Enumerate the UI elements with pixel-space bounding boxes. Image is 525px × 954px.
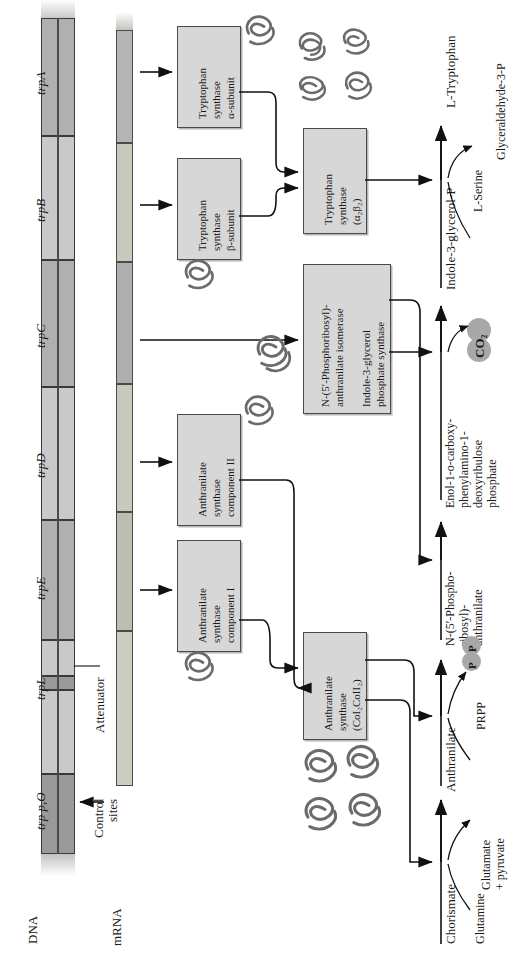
- metabolite-label-chorismate: Chorismate: [444, 884, 459, 944]
- enzyme-label-trpsyn-l2: synthase: [336, 187, 349, 225]
- metabolite-label-indole-3-glycerol-p: Indole-3-glycerol-P: [444, 187, 459, 290]
- enzyme-label-trpsyn-l3: (α₂β₂): [350, 199, 363, 225]
- dna-gene-label-trpC: trpC: [34, 324, 49, 348]
- mrna-segment-trpA: [116, 30, 133, 143]
- dna-axis-label: DNA: [26, 916, 41, 944]
- dna-center-line: [57, 18, 59, 854]
- cosubstrate-label-prpp: PRPP: [475, 702, 488, 730]
- attenuator-label: Attenuator: [93, 677, 108, 733]
- enzyme-box-anthranilate-synthase-complex[interactable]: Anthranilate synthase (CoI₂CoII₂): [303, 632, 367, 740]
- mrna-axis-label: mRNA: [110, 908, 125, 946]
- polypeptide-label-trpA-l2: synthase: [210, 81, 223, 119]
- enzyme-box-trpc-bifunctional[interactable]: N-(5′-Phosphoribosyl)- anthranilate isom…: [303, 264, 391, 414]
- coproduct-label-glutamate-pyruvate-l2: + pyruvate: [494, 838, 507, 890]
- metabolite-label-anthranilate: Anthranilate: [444, 727, 459, 792]
- polypeptide-box-tryptophan-synthase-beta[interactable]: Tryptophan synthase β-subunit: [177, 158, 241, 260]
- cosubstrate-label-glutamine: Glutamine: [474, 893, 487, 944]
- polypeptide-label-trpE-l2: synthase: [210, 605, 223, 643]
- enzyme-label-trpc-l4: Indole-3-glycerol: [360, 330, 373, 407]
- dna-gene-label-trpE: trpE: [34, 577, 49, 600]
- metabolite-label-cdrp-l4: phosphate: [486, 459, 499, 508]
- polypeptide-label-trpB-l1: Tryptophan: [196, 200, 209, 251]
- polypeptide-box-anthranilate-synthase-component-i[interactable]: Anthranilate synthase component I: [177, 540, 241, 652]
- co2-label: CO₂: [473, 335, 488, 358]
- dna-gene-label-trpL: trpL: [34, 678, 49, 700]
- enzyme-box-tryptophan-synthase-complex[interactable]: Tryptophan synthase (α₂β₂): [303, 128, 367, 234]
- metabolite-label-cdrp-l1: Enol-1-o-carboxy-: [444, 419, 457, 508]
- polypeptide-label-trpD-l1: Anthranilate: [196, 462, 209, 517]
- polypeptide-label-trpA-l1: Tryptophan: [196, 68, 209, 119]
- polypeptide-label-trpD-l3: component II: [224, 458, 237, 517]
- dna-gene-label-trpB: trpB: [34, 199, 49, 222]
- enzyme-label-anthsyn-l1: Anthranilate: [322, 676, 335, 731]
- mrna-segment-trpB: [116, 143, 133, 262]
- control-sites-label-line2: sites: [106, 799, 121, 822]
- enzyme-label-trpc-l2: anthranilate isomerase: [333, 308, 346, 407]
- dna-gene-label-trp-promoter-operator: trp p,O: [34, 792, 49, 830]
- polypeptide-label-trpB-l3: β-subunit: [224, 209, 237, 251]
- enzyme-label-trpsyn-l1: Tryptophan: [322, 174, 335, 225]
- pyrophosphate-label-b: P: [466, 662, 478, 669]
- enzyme-label-trpc-l1: N-(5′-Phosphoribosyl)-: [319, 304, 332, 407]
- mrna-segment-trpE: [116, 512, 133, 631]
- metabolite-label-prib-anthranilate-l1: N-(5′-Phospho-: [444, 571, 457, 646]
- polypeptide-label-trpD-l2: synthase: [210, 479, 223, 517]
- polypeptide-box-anthranilate-synthase-component-ii[interactable]: Anthranilate synthase component II: [177, 414, 241, 526]
- enzyme-label-anthsyn-l3: (CoI₂CoII₂): [350, 679, 363, 731]
- dna-gene-label-trpA: trpA: [34, 72, 49, 95]
- mrna-fade: [116, 12, 133, 32]
- polypeptide-label-trpB-l2: synthase: [210, 213, 223, 251]
- polypeptide-label-trpA-l3: α-subunit: [224, 77, 237, 119]
- mrna-strand: [116, 30, 133, 786]
- enzyme-label-trpc-l5: phosphate synthase: [374, 322, 387, 407]
- dna-strand: [41, 18, 75, 854]
- cosubstrate-label-l-serine: L-Serine: [472, 170, 485, 212]
- pyrophosphate-label-a: P: [466, 645, 478, 652]
- metabolite-label-cdrp-l2: phenylamino-1-: [458, 431, 471, 508]
- enzyme-label-anthsyn-l2: synthase: [336, 693, 349, 731]
- dna-gene-label-trpD: trpD: [34, 453, 49, 478]
- coproduct-label-glyceraldehyde-3-p: Glyceraldehyde-3-P: [495, 63, 508, 160]
- mrna-segment-trpC: [116, 262, 133, 384]
- mrna-segment-trpD: [116, 384, 133, 512]
- metabolite-label-l-tryptophan: L-Tryptophan: [444, 36, 459, 108]
- polypeptide-label-trpE-l3: component I: [224, 588, 237, 643]
- metabolite-label-cdrp-l3: deoxyribulose: [472, 440, 485, 508]
- coproduct-label-glutamate-pyruvate-l1: Glutamate: [480, 840, 493, 890]
- polypeptide-label-trpE-l1: Anthranilate: [196, 588, 209, 643]
- dna-fade-bottom: [41, 852, 75, 876]
- polypeptide-box-tryptophan-synthase-alpha[interactable]: Tryptophan synthase α-subunit: [177, 26, 241, 128]
- mrna-segment-leader: [116, 631, 133, 786]
